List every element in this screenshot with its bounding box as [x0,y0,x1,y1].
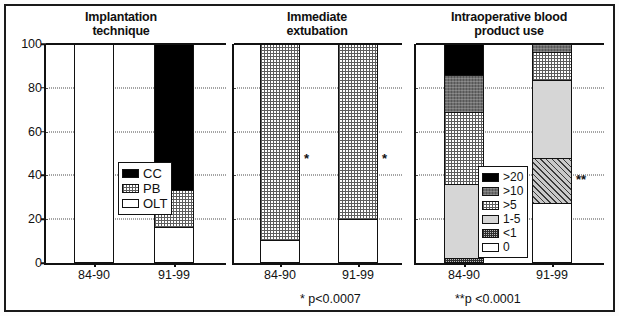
significance-marker-91-99: * [382,154,387,164]
legend-item-pb: PB [122,181,167,196]
footnote-p-0007: * p<0.0007 [300,292,361,306]
legend-swatch-gt5 [482,201,499,210]
legend-label-lt1: <1 [503,227,517,240]
xtick-label-91-99: 91-99 [342,268,374,282]
ytick-label-40: 40 [28,168,42,182]
legend-swatch-lt1 [482,229,499,238]
legend-label-gt20: >20 [503,171,523,184]
bar-extubation-91-99[interactable] [338,44,378,263]
legend-item-zero: 0 [482,240,523,254]
bar-implantation-91-99[interactable] [154,44,194,263]
figure-root: Implantationtechnique 100 80 60 40 20 0 [0,0,619,316]
xtick-mark-84-90 [464,263,466,267]
legend-swatch-zero [482,243,499,252]
bar-segment-lt1 [445,258,483,262]
bar-segment-olt [75,45,113,262]
legend-swatch-cc [122,169,139,178]
plot-area-immediate-extubation: 84-90 * 91-99 * [232,44,402,265]
panel-intraoperative-blood-product-use: Intraoperative bloodproduct use 84-90 [414,10,604,295]
gridline-80 [46,87,226,88]
legend-swatch-olt [122,199,139,208]
xtick-label-91-99: 91-99 [158,268,190,282]
panel-title-intraoperative-blood-product-use: Intraoperative bloodproduct use [414,10,604,38]
bar-segment-not-extubated [339,45,377,219]
ytick-label-60: 60 [28,125,42,139]
legend-swatch-gt10 [482,187,499,196]
panel-implantation-technique: Implantationtechnique 100 80 60 40 20 0 [16,10,226,295]
bar-segment-extubated [339,219,377,262]
legend-label-cc: CC [143,167,162,180]
xtick-mark-91-99 [552,263,554,267]
bar-segment-gt10 [445,75,483,112]
bar-segment-gt20 [445,45,483,75]
panel-title-immediate-extubation: Immediateextubation [232,10,402,38]
legend-implantation-technique: CC PB OLT [118,162,172,215]
bar-extubation-84-90[interactable] [260,44,300,263]
xtick-mark-84-90 [280,263,282,267]
legend-label-olt: OLT [143,197,167,210]
legend-label-pb: PB [143,182,160,195]
bar-segment-extubated [261,240,299,262]
legend-swatch-1-5 [482,215,499,224]
legend-label-1-5: 1-5 [503,213,520,226]
xtick-label-84-90: 84-90 [448,268,480,282]
gridline-60 [46,131,226,132]
panel-immediate-extubation: Immediateextubation 84-90 * 91-99 * [232,10,402,295]
ytick-label-80: 80 [28,81,42,95]
legend-item-gt5: >5 [482,198,523,212]
bar-segment-olt [155,227,193,262]
legend-intraoperative-blood-product-use: >20 >10 >5 1-5 <1 [478,166,528,258]
bar-segment-gt5 [533,52,571,80]
legend-item-olt: OLT [122,196,167,211]
legend-label-gt5: >5 [503,199,517,212]
bar-blood-91-99[interactable] [532,44,572,263]
legend-item-cc: CC [122,166,167,181]
footnote-p-0001: **p <0.0001 [455,292,521,306]
legend-label-zero: 0 [503,241,510,254]
legend-swatch-pb [122,184,139,193]
bar-implantation-84-90[interactable] [74,44,114,263]
xtick-label-91-99: 91-99 [536,268,568,282]
bar-segment-zero [533,203,571,262]
legend-item-lt1: <1 [482,226,523,240]
bar-segment-1-5 [533,80,571,158]
plot-area-implantation-technique: 100 80 60 40 20 0 84-90 [44,44,226,265]
significance-marker-91-99: ** [576,175,586,185]
legend-item-gt10: >10 [482,184,523,198]
gridline-20 [46,219,226,220]
xtick-label-84-90: 84-90 [78,268,110,282]
bar-segment-lt1 [533,158,571,204]
significance-marker-84-90: * [304,154,309,164]
xtick-mark-91-99 [174,263,176,267]
legend-item-1-5: 1-5 [482,212,523,226]
bar-segment-not-extubated [261,45,299,240]
plot-area-intraoperative-blood-product-use: 84-90 91-99 ** >20 >10 [414,44,604,265]
legend-item-gt20: >20 [482,170,523,184]
legend-label-gt10: >10 [503,185,523,198]
xtick-mark-91-99 [358,263,360,267]
ytick-label-0: 0 [35,256,42,270]
xtick-mark-84-90 [94,263,96,267]
ytick-label-100: 100 [21,37,42,51]
bar-segment-gt10 [533,45,571,52]
xtick-label-84-90: 84-90 [264,268,296,282]
legend-swatch-gt20 [482,173,499,182]
panel-title-implantation-technique: Implantationtechnique [16,10,226,38]
plot-top-rule [46,43,226,45]
ytick-label-20: 20 [28,212,42,226]
